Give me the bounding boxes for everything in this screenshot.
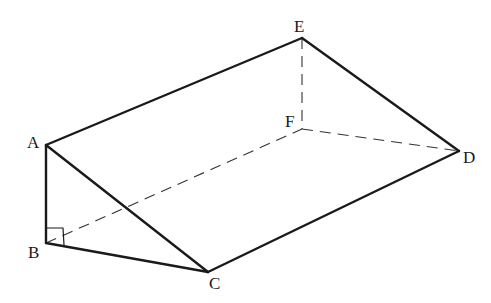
edge-BC — [46, 243, 208, 272]
label-F: F — [285, 112, 294, 131]
prism-svg: A B C D E F — [0, 0, 491, 303]
hidden-edges — [46, 38, 459, 243]
label-B: B — [28, 243, 39, 262]
solid-edges — [46, 38, 459, 272]
edge-CD — [208, 151, 459, 272]
label-C: C — [209, 274, 220, 293]
label-D: D — [463, 148, 475, 167]
edge-AC — [46, 145, 208, 272]
prism-diagram: A B C D E F — [0, 0, 491, 303]
edge-AE — [46, 38, 302, 145]
label-A: A — [27, 133, 40, 152]
edge-FD — [302, 129, 459, 151]
label-E: E — [294, 17, 304, 36]
edge-BF — [46, 129, 302, 243]
edge-ED — [302, 38, 459, 151]
